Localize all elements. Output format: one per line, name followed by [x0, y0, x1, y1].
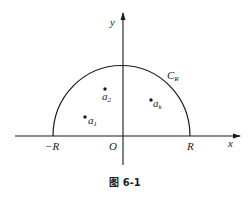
contour-label: CR: [167, 69, 179, 83]
figure-caption: 图 6-1: [109, 177, 141, 188]
origin-label: O: [109, 140, 117, 152]
point-label-ak: ak: [153, 97, 163, 111]
point-label-a2: a2: [102, 90, 112, 104]
y-axis-label: y: [109, 16, 115, 28]
neg-R-label: −R: [45, 140, 59, 152]
point-label-a1: a1: [88, 114, 97, 128]
pos-R-label: R: [186, 140, 194, 152]
contour-diagram: y x O −R R CR a1 a2 ak 图 6-1: [0, 0, 251, 197]
x-axis-label: x: [227, 137, 233, 149]
point-a1: [83, 115, 86, 118]
